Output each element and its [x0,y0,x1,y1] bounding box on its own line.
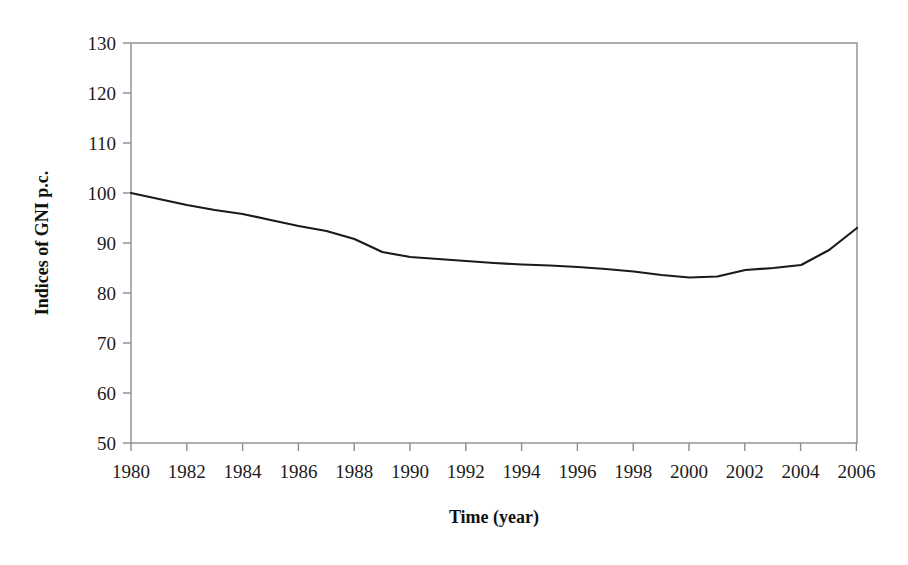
x-tick-label: 1982 [168,461,206,482]
x-tick-label: 1988 [335,461,373,482]
x-tick-label: 2000 [670,461,708,482]
chart-figure: 50 60 70 80 90 100 110 120 130 [0,0,908,565]
y-tick-label: 120 [88,83,117,104]
line-chart: 50 60 70 80 90 100 110 120 130 [0,0,908,565]
x-tick-label: 1984 [224,461,263,482]
x-tick-label: 1986 [279,461,317,482]
y-tick-label: 60 [97,383,116,404]
x-tick-label: 1994 [503,461,542,482]
x-axis: 1980 1982 1984 1986 1988 1990 1992 1994 … [112,443,875,482]
x-tick-label: 2002 [726,461,764,482]
y-axis: 50 60 70 80 90 100 110 120 130 [88,33,132,454]
y-tick-label: 130 [88,33,117,54]
y-tick-label: 90 [97,233,116,254]
y-tick-label: 100 [88,183,117,204]
x-tick-label: 1990 [391,461,429,482]
x-tick-label: 1996 [558,461,596,482]
y-tick-label: 70 [97,333,116,354]
x-tick-label: 2006 [837,461,875,482]
x-tick-label: 1998 [614,461,652,482]
y-tick-label: 80 [97,283,116,304]
plot-background [131,43,857,443]
y-tick-label: 50 [97,433,116,454]
y-tick-group: 50 60 70 80 90 100 110 120 130 [88,33,132,454]
x-tick-label: 1992 [447,461,485,482]
x-tick-label: 1980 [112,461,150,482]
y-axis-title: Indices of GNI p.c. [32,171,52,316]
y-tick-label: 110 [88,133,116,154]
x-axis-title: Time (year) [449,507,539,528]
x-tick-label: 2004 [782,461,821,482]
